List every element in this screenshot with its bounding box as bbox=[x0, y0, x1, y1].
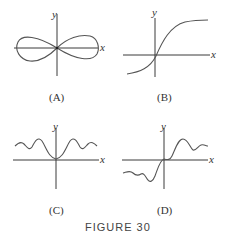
panel-caption: (A) bbox=[49, 91, 65, 104]
panel-caption: (B) bbox=[157, 91, 172, 104]
y-axis-label: y bbox=[51, 8, 57, 20]
x-axis-label: x bbox=[99, 41, 105, 53]
panel-b: y x (B) bbox=[123, 6, 216, 104]
figure-title: FIGURE 30 bbox=[85, 221, 151, 233]
x-axis-label: x bbox=[208, 153, 214, 165]
panel-caption: (D) bbox=[157, 204, 173, 217]
y-axis-label: y bbox=[52, 120, 58, 132]
panel-caption: (C) bbox=[49, 204, 64, 217]
figure-canvas: y x (A) y x (B) y x (C) y x (D) FIGURE 3… bbox=[0, 0, 225, 245]
x-axis-label: x bbox=[210, 48, 216, 60]
panel-c: y x (C) bbox=[13, 120, 105, 217]
panel-d: y x (D) bbox=[122, 120, 214, 217]
y-axis-label: y bbox=[160, 120, 166, 132]
panel-a: y x (A) bbox=[14, 8, 105, 104]
origin-point bbox=[56, 47, 59, 50]
sigmoid-curve bbox=[127, 20, 208, 74]
y-axis-label: y bbox=[151, 6, 157, 18]
x-axis-label: x bbox=[99, 153, 105, 165]
